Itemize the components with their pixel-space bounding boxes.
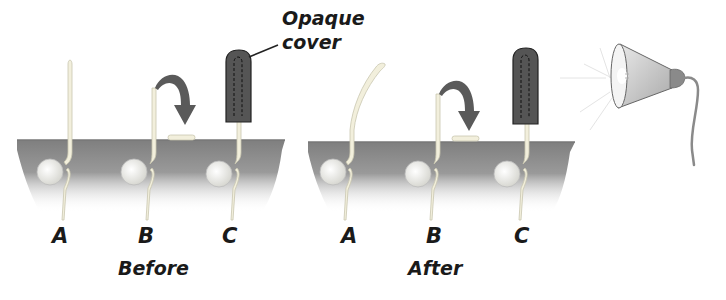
cover-label-line1: Opaque (282, 6, 365, 30)
label-c-after: C (514, 226, 529, 247)
phototropism-diagram: Opaque cover A B C Before A B C After (0, 0, 726, 300)
label-a-before: A (52, 226, 68, 247)
opaque-cover-after (513, 48, 538, 124)
label-b-before: B (138, 226, 154, 247)
soil-after (308, 142, 575, 212)
curved-arrow-icon (439, 81, 480, 131)
removed-tip-after (452, 136, 479, 141)
lamp-icon (560, 44, 698, 165)
removed-tip-before (168, 135, 195, 140)
cover-label-line2: cover (282, 30, 365, 54)
opaque-cover-before (226, 50, 251, 122)
opaque-cover-label: Opaque cover (282, 6, 365, 54)
caption-after: After (408, 259, 462, 278)
label-b-after: B (426, 226, 442, 247)
caption-before: Before (118, 259, 189, 278)
curved-arrow-icon (155, 75, 196, 125)
label-c-before: C (222, 226, 237, 247)
label-a-after: A (341, 226, 357, 247)
cover-pointer-line (249, 45, 278, 57)
